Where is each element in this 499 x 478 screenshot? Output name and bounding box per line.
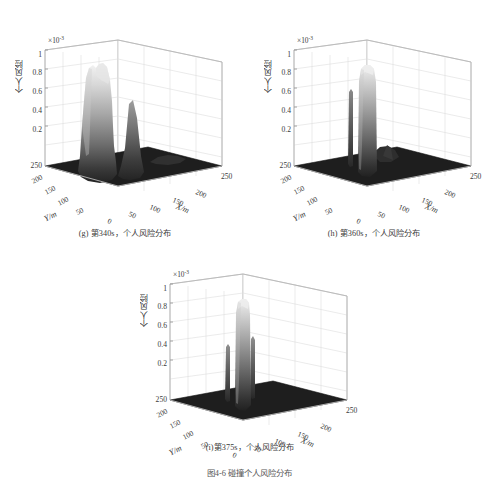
figure-bottom-caption: 图4-6 碰撞个人风险分布 <box>0 466 499 478</box>
surface-plot-g <box>0 6 250 242</box>
panel-g: ×10-3 个人风险 1 0.8 0.6 0.4 0.2 250 200 150… <box>0 6 250 242</box>
surface-plot-i <box>125 243 375 469</box>
panel-h: ×10-3 个人风险 1 0.8 0.6 0.4 0.2 250 200 150… <box>249 6 499 242</box>
caption-panel-i: (i)第375s，个人风险分布 <box>125 440 375 452</box>
caption-panel-h: (h) 第360s，个人风险分布 <box>249 226 499 238</box>
panel-i: ×10-3 个人风险 1 0.8 0.6 0.4 0.2 250 200 150… <box>125 243 375 469</box>
caption-panel-g: (g) 第340s，个人风险分布 <box>0 226 250 238</box>
surface-plot-h <box>249 6 499 242</box>
